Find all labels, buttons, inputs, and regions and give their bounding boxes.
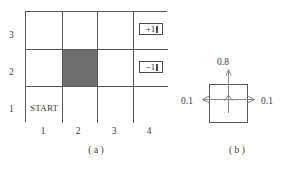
- terminal-negative-box: −1: [139, 61, 163, 73]
- column-label-2: 2: [72, 127, 84, 137]
- grid-cell-c2r3: [62, 12, 98, 49]
- terminal-positive-label: +1: [146, 25, 156, 34]
- grid-cell-c3r2: [97, 49, 133, 86]
- grid-cell-c1r3: [26, 12, 62, 49]
- row-label-3: 3: [9, 31, 14, 41]
- column-label-1: 1: [37, 127, 49, 137]
- column-label-3: 3: [108, 127, 120, 137]
- panel-b-transition-model: 0.8 0.1 0.1: [181, 0, 281, 169]
- grid-cell-c4r1: [133, 86, 169, 123]
- forward-probability-label: 0.8: [217, 58, 229, 68]
- panel-b-caption: ( b ): [193, 146, 281, 156]
- panel-a-caption: ( a ): [0, 146, 192, 156]
- grid-cell-c2r1: [62, 86, 98, 123]
- column-label-4: 4: [143, 127, 155, 137]
- gridworld-grid: +1 −1 START: [25, 11, 167, 122]
- grid-cell-c2r2-blocked: [62, 49, 98, 86]
- grid-cell-c1r1-start: START: [26, 86, 62, 123]
- panel-a-gridworld: 3 2 1 +1 −1 STAR: [0, 0, 181, 169]
- grid-cell-c1r2: [26, 49, 62, 86]
- left-probability-label: 0.1: [181, 97, 193, 107]
- right-probability-label: 0.1: [261, 97, 273, 107]
- row-label-1: 1: [9, 105, 14, 115]
- terminal-positive-box: +1: [139, 23, 163, 35]
- transition-arrows: [181, 55, 281, 130]
- grid-cell-c3r1: [97, 86, 133, 123]
- start-label: START: [30, 104, 58, 113]
- figure-root: 3 2 1 +1 −1 STAR: [0, 0, 281, 169]
- row-label-2: 2: [9, 68, 14, 78]
- grid-cell-c4r2: −1: [133, 49, 169, 86]
- terminal-negative-label: −1: [146, 63, 156, 72]
- grid-cell-c3r3: [97, 12, 133, 49]
- grid-cell-c4r3: +1: [133, 12, 169, 49]
